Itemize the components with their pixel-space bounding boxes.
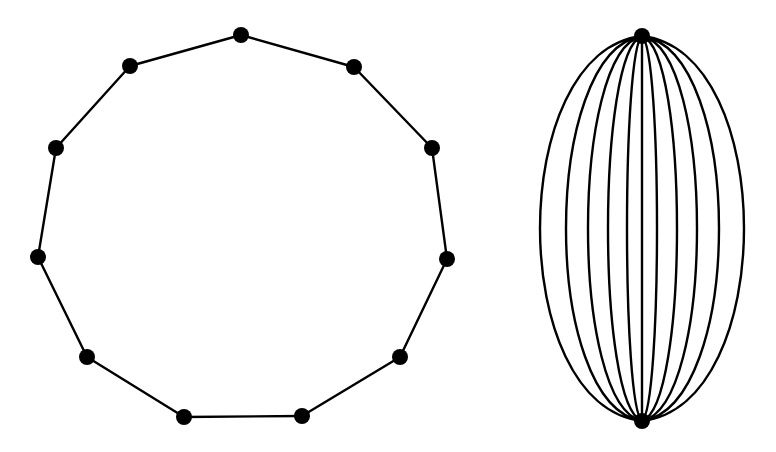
cycle-vertex [346, 59, 362, 75]
cycle-vertex [233, 27, 249, 43]
graph-diagram [0, 0, 776, 452]
multigraph-edges [540, 36, 744, 421]
cycle-vertex [122, 58, 138, 74]
multigraph-vertex-top [634, 28, 650, 44]
parallel-edge [642, 36, 677, 421]
diagram-canvas [0, 0, 776, 452]
cycle-vertex [294, 408, 310, 424]
cycle-edge [432, 148, 447, 259]
cycle-edge [38, 257, 87, 357]
cycle-vertex [79, 349, 95, 365]
cycle-edge [302, 357, 400, 416]
cycle-graph-edges [38, 35, 447, 417]
parallel-edge [642, 36, 697, 421]
cycle-vertex [30, 249, 46, 265]
parallel-edge [608, 36, 642, 421]
cycle-graph-vertices [30, 27, 455, 425]
cycle-edge [130, 35, 241, 66]
cycle-edge [38, 148, 56, 257]
multigraph-vertex-bottom [634, 413, 650, 429]
cycle-edge [184, 416, 302, 417]
cycle-edge [241, 35, 354, 67]
cycle-edge [400, 259, 447, 357]
cycle-edge [354, 67, 432, 148]
cycle-vertex [439, 251, 455, 267]
cycle-edge [87, 357, 184, 417]
cycle-edge [56, 66, 130, 148]
parallel-edge [588, 36, 642, 421]
cycle-vertex [48, 140, 64, 156]
parallel-edge [627, 36, 642, 421]
cycle-vertex [424, 140, 440, 156]
cycle-vertex [392, 349, 408, 365]
parallel-edge [642, 36, 657, 421]
cycle-vertex [176, 409, 192, 425]
